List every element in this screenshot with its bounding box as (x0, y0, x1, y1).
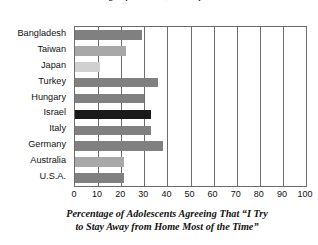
bar-row (75, 59, 306, 75)
category-label: Japan (0, 58, 70, 74)
category-label: Turkey (0, 74, 70, 90)
category-label: Bangladesh (0, 26, 70, 42)
tick-label: 60 (208, 189, 218, 199)
tick-label: 0 (71, 189, 76, 199)
category-label: Hungary (0, 90, 70, 106)
category-label: Israel (0, 105, 70, 121)
bar (75, 30, 142, 40)
tick-label: 80 (254, 189, 264, 199)
bar-row (75, 154, 306, 170)
bar-row (75, 27, 306, 43)
bar-row (75, 138, 306, 154)
bar-chart-figure: Percentage of the Time, Most of the Time… (0, 0, 318, 245)
category-label: Australia (0, 153, 70, 169)
tick-label: 20 (115, 189, 125, 199)
category-label: Taiwan (0, 42, 70, 58)
tick-label: 70 (231, 189, 241, 199)
category-label: Germany (0, 137, 70, 153)
plot-area (74, 26, 307, 187)
value-axis-ticks: 0102030405060708090100 (74, 189, 305, 203)
tick-label: 10 (92, 189, 102, 199)
bar (75, 94, 144, 104)
bar (75, 126, 151, 136)
axis-caption-line-1: Percentage of Adolescents Agreeing That … (26, 207, 308, 220)
gridline (306, 27, 307, 186)
bar (75, 62, 100, 72)
bar (75, 78, 158, 88)
bar-row (75, 43, 306, 59)
category-label: U.S.A. (0, 169, 70, 185)
tick-label: 30 (138, 189, 148, 199)
category-label: Italy (0, 121, 70, 137)
tick-label: 90 (277, 189, 287, 199)
bar-row (75, 170, 306, 186)
bar-row (75, 75, 306, 91)
axis-caption: Percentage of Adolescents Agreeing That … (26, 207, 308, 233)
axis-caption-line-2: to Stay Away from Home Most of the Time” (26, 220, 308, 233)
tick-label: 50 (184, 189, 194, 199)
bar (75, 141, 163, 151)
bar (75, 157, 124, 167)
bar-row (75, 91, 306, 107)
bar (75, 110, 151, 120)
tick-label: 40 (161, 189, 171, 199)
category-axis-labels: BangladeshTaiwanJapanTurkeyHungaryIsrael… (0, 26, 70, 185)
figure-title-cropped: Percentage of the Time, Most of the Time… (0, 0, 318, 3)
bar (75, 46, 126, 56)
bar (75, 173, 124, 183)
bar-row (75, 106, 306, 122)
tick-label: 100 (297, 189, 312, 199)
bar-row (75, 122, 306, 138)
bar-rows (75, 27, 306, 186)
